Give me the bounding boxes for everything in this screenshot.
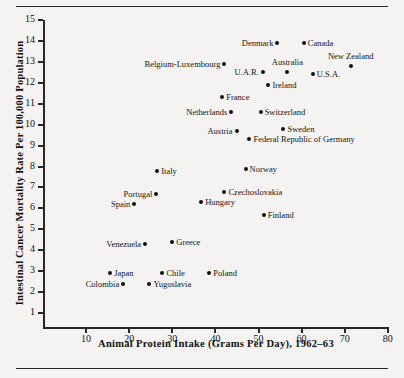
- data-point[interactable]: [261, 70, 265, 74]
- data-point-label: Norway: [250, 164, 277, 173]
- data-point[interactable]: [222, 62, 226, 66]
- data-point[interactable]: [247, 137, 251, 141]
- data-point-label: U.S.A.: [317, 70, 340, 79]
- data-point-label: Australia: [272, 58, 303, 67]
- data-point[interactable]: [108, 271, 112, 275]
- y-tick: 15: [38, 19, 43, 21]
- data-point-label: Venezuela: [106, 239, 141, 248]
- data-point[interactable]: [281, 127, 285, 131]
- y-tick: 9: [38, 145, 43, 147]
- y-tick: 5: [38, 228, 43, 230]
- data-point-label: Denmark: [242, 39, 274, 48]
- top-rule: [16, 6, 388, 7]
- y-tick: 13: [38, 61, 43, 63]
- data-point-label: U.A.R.: [234, 68, 258, 77]
- y-tick: 8: [38, 166, 43, 168]
- data-point[interactable]: [143, 242, 147, 246]
- data-point[interactable]: [349, 64, 353, 68]
- data-point-label: Greece: [176, 237, 200, 246]
- data-point-label: Hungary: [205, 198, 235, 207]
- data-point[interactable]: [259, 110, 263, 114]
- data-point[interactable]: [170, 240, 174, 244]
- data-point[interactable]: [199, 200, 203, 204]
- y-tick: 6: [38, 207, 43, 209]
- data-point[interactable]: [262, 213, 266, 217]
- data-point-label: Federal Republic of Germany: [253, 135, 354, 144]
- data-point-label: Japan: [114, 269, 133, 278]
- y-tick: 2: [38, 291, 43, 293]
- data-point-label: Colombia: [86, 279, 120, 288]
- data-point-label: Switzerland: [265, 108, 306, 117]
- data-point[interactable]: [147, 282, 151, 286]
- data-point-label: France: [226, 93, 249, 102]
- data-point[interactable]: [311, 72, 315, 76]
- data-point-label: Poland: [213, 269, 237, 278]
- data-point-label: Portugal: [124, 189, 153, 198]
- bottom-rule: [16, 368, 388, 369]
- data-point[interactable]: [155, 169, 159, 173]
- scatter-plot-area: 123456789101112131415 1020304050607080 D…: [43, 20, 388, 328]
- data-point-label: Chile: [166, 269, 184, 278]
- data-point-label: Canada: [308, 39, 334, 48]
- figure-container: 123456789101112131415 1020304050607080 D…: [0, 0, 404, 378]
- data-point-label: Netherlands: [186, 108, 227, 117]
- y-tick: 7: [38, 186, 43, 188]
- data-point[interactable]: [235, 129, 239, 133]
- data-point[interactable]: [154, 192, 158, 196]
- data-point-label: Ireland: [272, 80, 296, 89]
- y-tick: 4: [38, 249, 43, 251]
- y-tick: 10: [38, 124, 43, 126]
- data-point[interactable]: [132, 202, 136, 206]
- data-point[interactable]: [285, 70, 289, 74]
- data-point-label: Czechoslovakia: [228, 187, 282, 196]
- data-point[interactable]: [121, 282, 125, 286]
- y-tick: 3: [38, 270, 43, 272]
- data-point-label: Finland: [268, 210, 294, 219]
- y-tick: 12: [38, 82, 43, 84]
- data-point[interactable]: [275, 41, 279, 45]
- data-point-label: Belgium-Luxembourg: [145, 59, 221, 68]
- y-axis-title: Intestinal Cancer Mortality Rate Per 100…: [14, 8, 32, 338]
- data-point[interactable]: [160, 271, 164, 275]
- y-tick: 1: [38, 312, 43, 314]
- y-axis-line: [43, 20, 45, 329]
- data-point-label: Italy: [161, 166, 177, 175]
- data-point[interactable]: [229, 110, 233, 114]
- data-point[interactable]: [222, 190, 226, 194]
- data-point-label: Austria: [207, 126, 232, 135]
- y-tick: 14: [38, 40, 43, 42]
- data-point[interactable]: [302, 41, 306, 45]
- data-point[interactable]: [266, 83, 270, 87]
- data-point-label: Yugoslavia: [153, 279, 191, 288]
- y-tick: 11: [38, 103, 43, 105]
- data-point[interactable]: [220, 95, 224, 99]
- data-point-label: Sweden: [287, 124, 314, 133]
- data-point[interactable]: [244, 167, 248, 171]
- x-axis-title: Animal Protein Intake (Grams Per Day), 1…: [43, 338, 389, 349]
- data-point[interactable]: [207, 271, 211, 275]
- data-point-label: New Zealand: [328, 52, 374, 61]
- data-point-label: Spain: [111, 200, 130, 209]
